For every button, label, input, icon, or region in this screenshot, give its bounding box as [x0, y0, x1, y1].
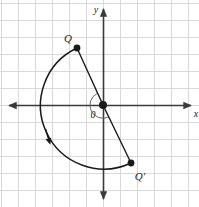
point-dot-Q-prime	[128, 160, 135, 167]
point-label-Q: Q	[64, 32, 72, 44]
y-axis-label: y	[93, 4, 99, 15]
segment-origin-Q	[77, 48, 103, 105]
rotation-diagram: Q Q′ 0 y x	[0, 0, 199, 207]
segment-origin-Q-prime	[103, 105, 131, 163]
point-dot-Q	[74, 45, 81, 52]
x-axis-label: x	[193, 108, 199, 119]
point-label-Q-prime: Q′	[135, 170, 146, 182]
origin-label: 0	[91, 109, 96, 120]
point-dot-origin	[99, 101, 107, 109]
coordinate-plane-canvas: Q Q′ 0 y x	[0, 0, 199, 207]
